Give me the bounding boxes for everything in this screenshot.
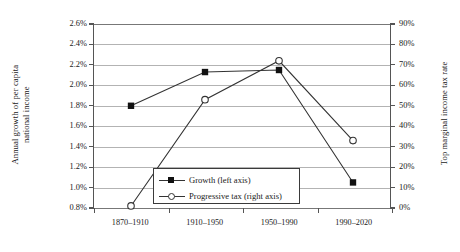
tick-mark [390, 85, 395, 86]
tick-mark [390, 44, 395, 45]
x-tick-mark [318, 208, 319, 213]
data-point-circle [350, 137, 357, 144]
open-circle-marker-icon [159, 191, 185, 201]
legend-item-progressive-tax: Progressive tax (right axis) [159, 188, 294, 204]
right-axis-tick-label: 0% [399, 203, 441, 212]
left-axis-tick-label: 1.6% [45, 121, 87, 130]
left-axis-tick-label: 2.6% [45, 19, 87, 28]
series-line [131, 70, 353, 182]
tick-mark [390, 126, 395, 127]
left-axis-tick-label: 1.0% [45, 183, 87, 192]
x-axis-tick-label: 1910–1950 [165, 218, 245, 227]
x-tick-mark [169, 208, 170, 213]
right-axis-tick-label: 20% [399, 162, 441, 171]
left-axis-tick-label: 2.0% [45, 80, 87, 89]
data-point-square [350, 179, 356, 185]
left-axis-tick-label: 1.8% [45, 101, 87, 110]
legend-label-progressive-tax: Progressive tax (right axis) [189, 191, 282, 201]
right-axis-tick-label: 90% [399, 19, 441, 28]
right-axis-tick-label: 30% [399, 142, 441, 151]
tick-mark [390, 146, 395, 147]
legend-item-growth: Growth (left axis) [159, 172, 294, 188]
data-point-square [128, 103, 134, 109]
data-point-square [276, 67, 282, 73]
right-axis-tick-label: 70% [399, 60, 441, 69]
right-axis-tick-label: 80% [399, 39, 441, 48]
legend-label-growth: Growth (left axis) [189, 175, 251, 185]
left-axis-tick-label: 2.4% [45, 39, 87, 48]
data-point-square [202, 69, 208, 75]
x-tick-mark [243, 208, 244, 213]
data-point-circle [128, 203, 135, 210]
x-axis-tick-label: 1950–1990 [239, 218, 319, 227]
tick-mark [390, 187, 395, 188]
x-tick-mark [392, 208, 393, 213]
left-axis-tick-label: 0.8% [45, 203, 87, 212]
left-axis-title-line1: Annual growth of per capita [10, 65, 20, 165]
gridline [94, 208, 390, 209]
left-axis-title: Annual growth of per capita national inc… [10, 35, 31, 195]
right-axis-tick-label: 50% [399, 101, 441, 110]
data-point-circle [276, 58, 283, 65]
filled-square-marker-icon [159, 175, 185, 185]
tick-mark [390, 105, 395, 106]
data-point-circle [202, 96, 209, 103]
left-axis-tick-label: 1.2% [45, 162, 87, 171]
left-axis-tick-label: 1.4% [45, 142, 87, 151]
chart-container: Annual growth of per capita national inc… [0, 0, 460, 252]
x-axis-tick-label: 1870–1910 [90, 218, 170, 227]
chart-legend: Growth (left axis) Progressive tax (righ… [153, 168, 300, 204]
tick-mark [390, 64, 395, 65]
right-axis-tick-label: 40% [399, 121, 441, 130]
left-axis-title-line2: national income [21, 35, 32, 195]
tick-mark [390, 23, 395, 24]
tick-mark [390, 167, 395, 168]
x-axis-tick-label: 1990–2020 [314, 218, 394, 227]
left-axis-tick-label: 2.2% [45, 60, 87, 69]
right-axis-tick-label: 10% [399, 183, 441, 192]
x-tick-mark [94, 208, 95, 213]
right-axis-tick-label: 60% [399, 80, 441, 89]
